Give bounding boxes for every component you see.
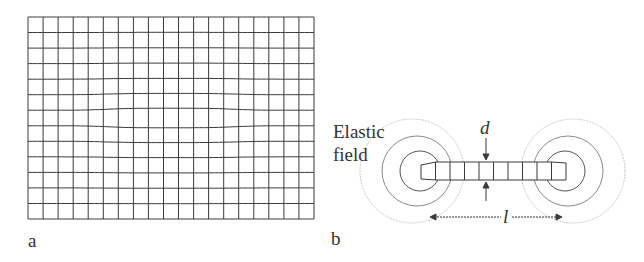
length-arrow [430, 214, 562, 220]
elastic-label: Elastic [333, 121, 385, 142]
panel-b-label: b [331, 228, 341, 249]
panel-b: Elastic field d l b [331, 117, 625, 249]
length-symbol-l: l [503, 206, 508, 227]
grid-line-horizontal [28, 63, 314, 64]
grid-line-horizontal [28, 93, 314, 94]
panel-a: a [28, 17, 314, 251]
panel-a-label: a [28, 230, 37, 251]
grid-line-horizontal [28, 108, 314, 110]
grid-line-horizontal [28, 172, 314, 173]
distorted-grid [28, 17, 314, 219]
grid-line-horizontal [28, 157, 314, 158]
thickness-arrow-down [483, 138, 489, 160]
thickness-arrow-up [483, 182, 489, 201]
grid-line-horizontal [28, 141, 314, 142]
grid-line-horizontal [28, 126, 314, 128]
grid-line-horizontal [28, 78, 314, 79]
thickness-symbol-d: d [480, 117, 490, 138]
field-label: field [333, 144, 368, 165]
